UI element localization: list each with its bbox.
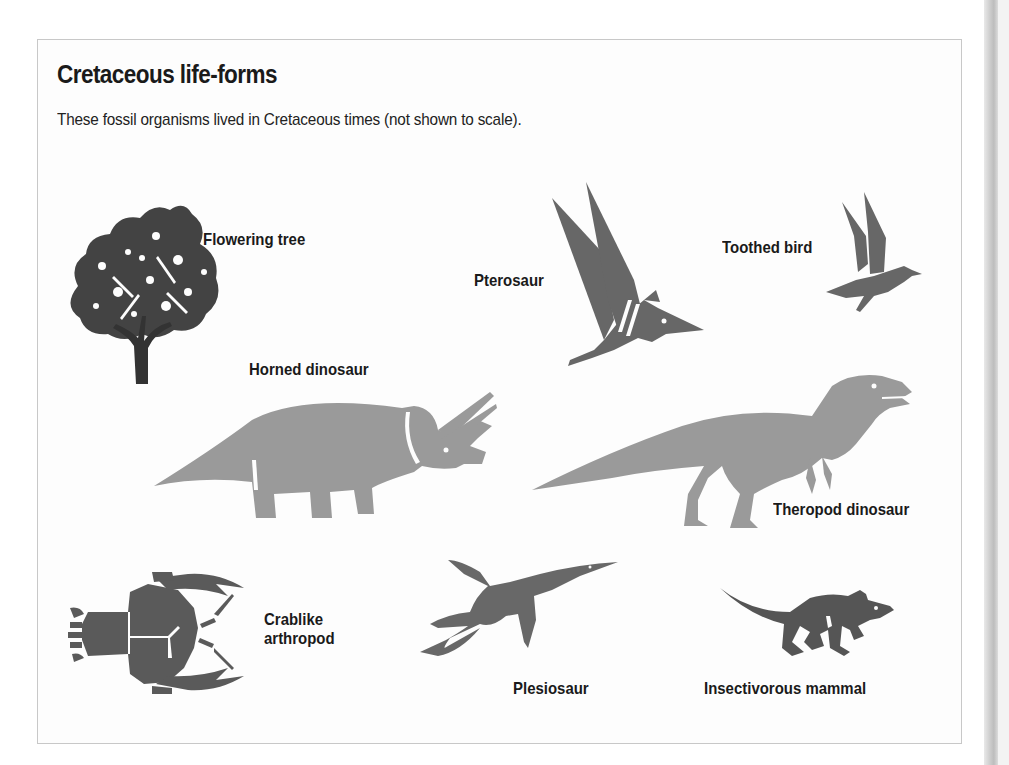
figure-title: Cretaceous life-forms [57,60,277,89]
insectivorous-mammal-icon [720,586,900,660]
page-edge [998,0,1009,765]
horned-dinosaur-label: Horned dinosaur [249,360,369,379]
crablike-arthropod-label-line2: arthropod [264,629,335,648]
plesiosaur-label: Plesiosaur [513,679,589,698]
flowering-tree-icon [58,196,226,386]
pterosaur-icon [548,180,708,370]
pterosaur-label: Pterosaur [474,271,544,290]
crablike-arthropod-icon [68,568,258,698]
plesiosaur-icon [420,556,620,668]
toothed-bird-label: Toothed bird [722,238,812,257]
crablike-arthropod-label-line1: Crablike [264,610,323,629]
toothed-bird-icon [826,192,926,316]
figure-subtitle: These fossil organisms lived in Cretaceo… [57,110,521,130]
flowering-tree-label: Flowering tree [203,230,305,249]
insectivorous-mammal-label: Insectivorous mammal [704,679,866,698]
theropod-dinosaur-label: Theropod dinosaur [773,500,909,519]
horned-dinosaur-icon [152,390,497,518]
page-gutter-shadow [984,0,998,765]
